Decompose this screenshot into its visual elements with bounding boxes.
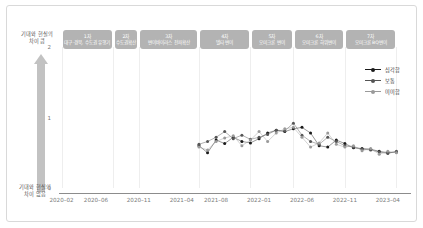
data-point — [197, 143, 200, 146]
data-point — [266, 133, 269, 136]
data-point — [300, 136, 303, 139]
data-point — [309, 146, 312, 149]
data-point — [249, 141, 252, 144]
data-point — [258, 130, 261, 133]
data-point — [326, 136, 329, 139]
data-point — [240, 140, 243, 143]
data-point — [309, 132, 312, 135]
legend-label: 보통 — [385, 77, 395, 84]
data-point — [215, 140, 218, 143]
data-point — [223, 142, 226, 145]
data-point — [275, 129, 278, 132]
data-point — [215, 136, 218, 139]
data-point — [318, 141, 321, 144]
data-point — [386, 150, 389, 153]
data-point — [206, 151, 209, 154]
data-point — [292, 122, 295, 125]
data-point — [275, 132, 278, 135]
legend-marker-icon — [365, 66, 381, 73]
data-point — [258, 136, 261, 139]
legend-marker-icon — [365, 77, 381, 84]
data-point — [292, 126, 295, 129]
legend-item[interactable]: 보통 — [365, 75, 421, 86]
data-point — [240, 134, 243, 137]
chart-frame: 기대와 현실의 차이 큼 기대와 현실의 차이 없음 0121차대구·경북, 수… — [6, 5, 417, 222]
data-point — [240, 144, 243, 147]
chart-legend: 심각함보통미미함 — [365, 64, 421, 97]
data-point — [223, 130, 226, 133]
legend-item[interactable]: 심각함 — [365, 64, 421, 75]
series-line — [199, 127, 396, 152]
x-axis-line — [59, 193, 411, 194]
data-point — [283, 127, 286, 130]
data-point — [300, 126, 303, 129]
legend-label: 심각함 — [385, 66, 400, 73]
data-point — [249, 139, 252, 142]
data-point — [223, 136, 226, 139]
data-point — [335, 143, 338, 146]
data-point — [206, 148, 209, 151]
legend-item[interactable]: 미미함 — [365, 86, 421, 97]
data-point — [343, 146, 346, 149]
data-point — [197, 146, 200, 149]
data-point — [206, 140, 209, 143]
data-point — [395, 151, 398, 154]
data-point — [326, 132, 329, 135]
data-point — [232, 134, 235, 137]
data-point — [309, 140, 312, 143]
data-point — [326, 146, 329, 149]
chart-screenshot: 기대와 현실의 차이 큼 기대와 현실의 차이 없음 0121차대구·경북, 수… — [0, 0, 423, 228]
series-canvas — [7, 6, 418, 223]
data-point — [369, 147, 372, 150]
data-point — [266, 140, 269, 143]
data-point — [352, 144, 355, 147]
legend-label: 미미함 — [385, 88, 400, 95]
data-point — [378, 153, 381, 156]
legend-marker-icon — [365, 88, 381, 95]
data-point — [232, 137, 235, 140]
data-point — [361, 149, 364, 152]
